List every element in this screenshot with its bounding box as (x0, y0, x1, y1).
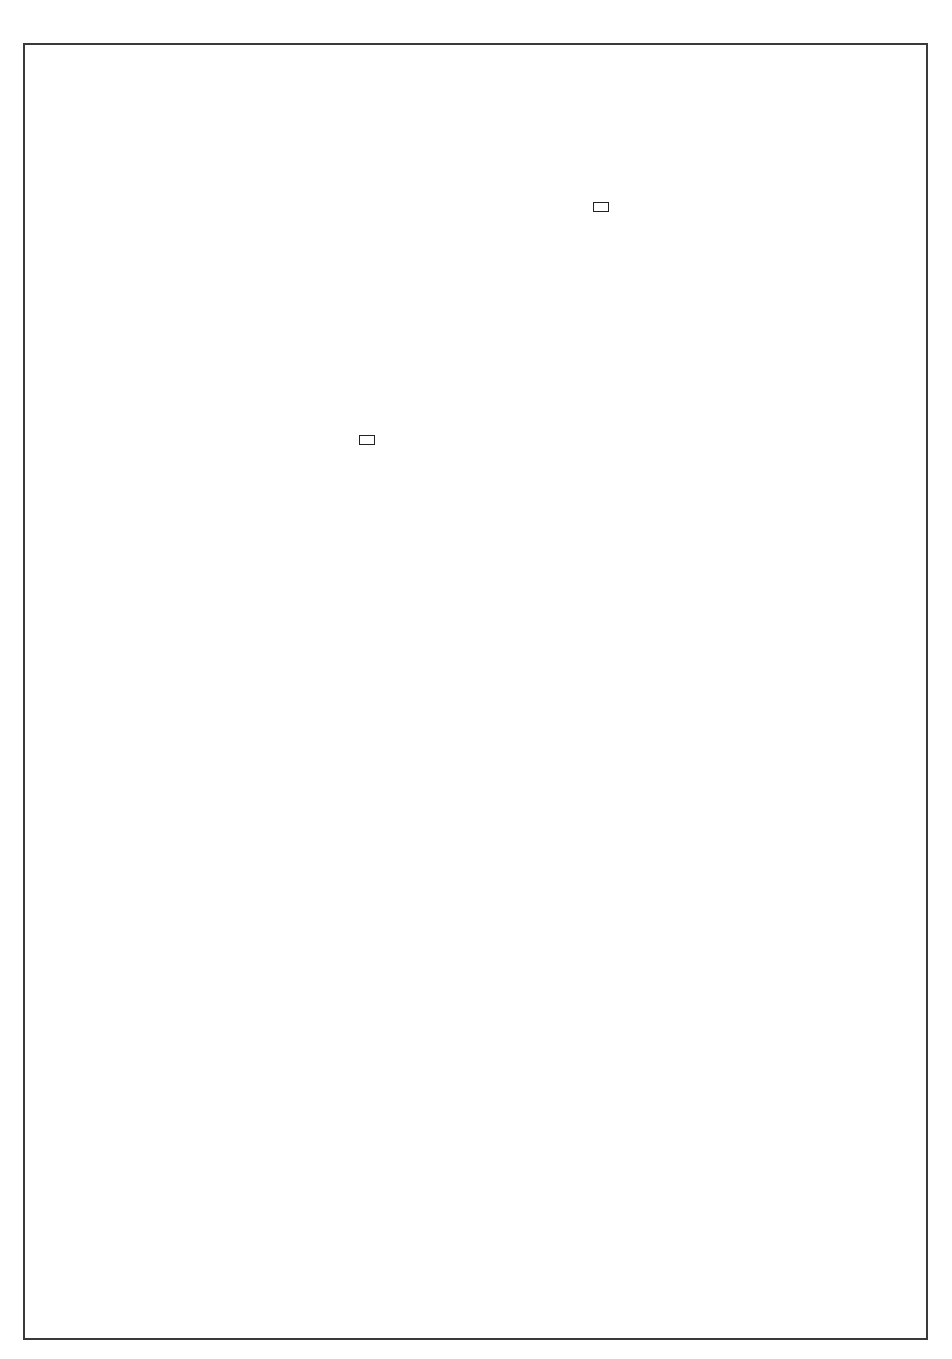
branch-tag-nanba (591, 200, 611, 214)
bracket-close (357, 440, 377, 447)
branch-tag-asukai (357, 433, 377, 447)
bracket-close (591, 207, 611, 214)
lineage-lines (0, 0, 952, 1359)
